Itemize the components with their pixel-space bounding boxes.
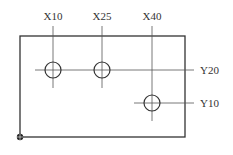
label-x40: X40 bbox=[143, 10, 162, 22]
label-x25: X25 bbox=[93, 10, 112, 22]
label-x10: X10 bbox=[44, 10, 63, 22]
label-y20: Y20 bbox=[200, 64, 219, 76]
plate-outline bbox=[20, 36, 185, 137]
label-y10: Y10 bbox=[200, 97, 219, 109]
hole-pattern-diagram: X10 X25 X40 Y20 Y10 bbox=[0, 0, 233, 155]
